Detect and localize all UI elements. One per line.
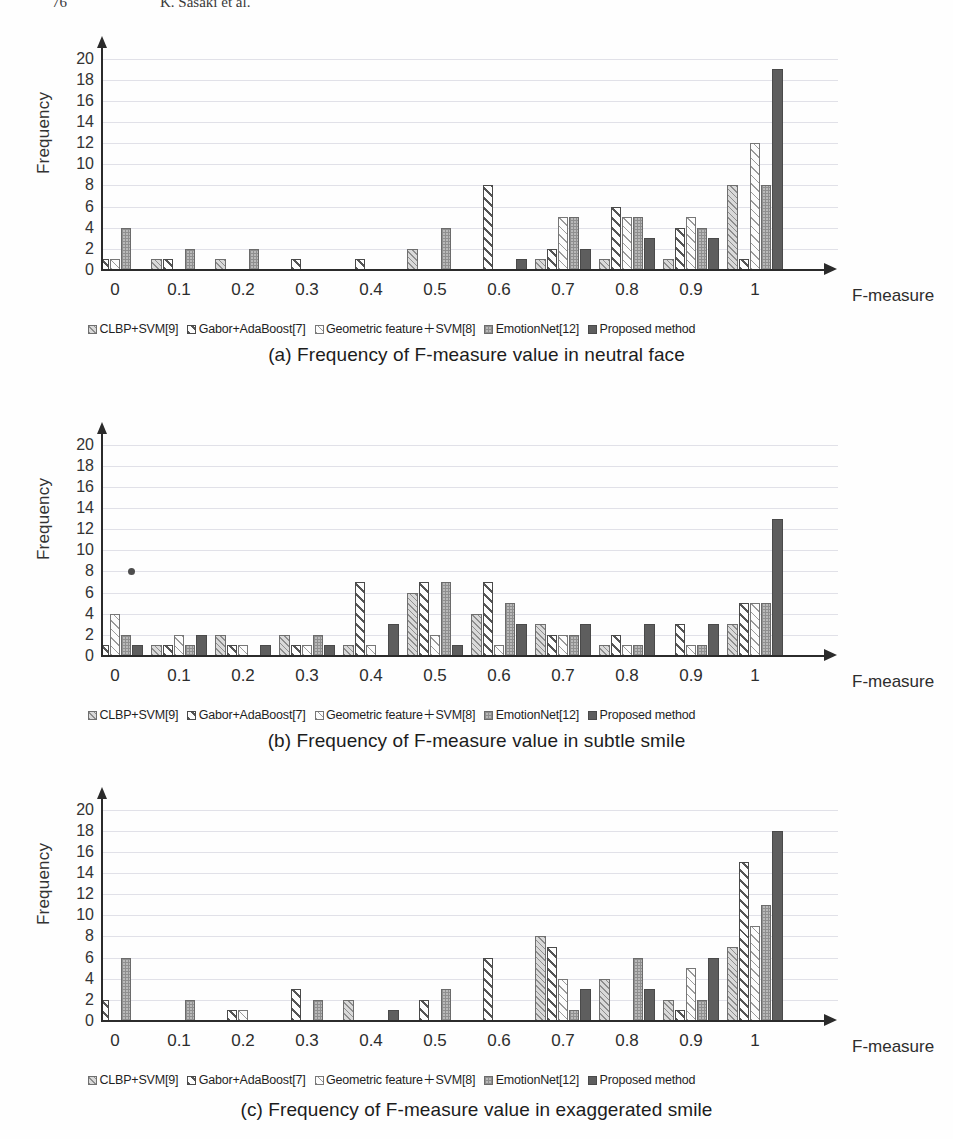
- y-tick-label: 14: [76, 865, 94, 881]
- x-tick-label: 0.4: [359, 280, 383, 300]
- legend-swatch-s0: [88, 1076, 97, 1085]
- figure-c: Frequency2018161412108642000.10.20.30.40…: [0, 785, 953, 1139]
- bar: [633, 217, 643, 270]
- x-axis-line: [101, 655, 827, 657]
- bar: [750, 926, 760, 1021]
- x-axis-title: F-measure: [852, 672, 934, 692]
- bar: [739, 862, 749, 1021]
- y-axis-arrow: [97, 422, 107, 434]
- bar: [761, 603, 771, 656]
- x-axis-title: F-measure: [852, 1037, 934, 1057]
- bar: [761, 185, 771, 270]
- chart-legend: CLBP+SVM[9]Gabor+AdaBoost[7]Geometric fe…: [88, 1069, 888, 1088]
- x-tick-label: 0.2: [231, 666, 255, 686]
- bar: [430, 635, 440, 656]
- bar: [441, 582, 451, 656]
- gridline: [101, 529, 838, 530]
- y-tick-label: 6: [85, 585, 94, 601]
- x-tick-label: 0.2: [231, 1031, 255, 1051]
- bar: [750, 603, 760, 656]
- gridline: [101, 852, 838, 853]
- bar: [535, 936, 545, 1021]
- bar: [483, 185, 493, 270]
- x-tick-label: 0.7: [551, 1031, 575, 1051]
- gridline: [101, 894, 838, 895]
- x-tick-label: 0.4: [359, 1031, 383, 1051]
- legend-label: CLBP+SVM[9]: [100, 1073, 179, 1087]
- legend-label: Gabor+AdaBoost[7]: [199, 708, 306, 722]
- bar: [121, 228, 131, 270]
- legend-label: Proposed method: [600, 322, 696, 336]
- x-tick-label: 0.5: [423, 666, 447, 686]
- chart-legend: CLBP+SVM[9]Gabor+AdaBoost[7]Geometric fe…: [88, 704, 888, 723]
- gridline: [101, 143, 838, 144]
- legend-item: CLBP+SVM[9]: [88, 322, 178, 336]
- bar: [633, 958, 643, 1021]
- gridline: [101, 122, 838, 123]
- x-tick-label: 0.8: [615, 666, 639, 686]
- x-tick-label: 0.3: [295, 1031, 319, 1051]
- y-axis-arrow: [97, 787, 107, 799]
- bar: [558, 979, 568, 1021]
- gridline: [101, 873, 838, 874]
- legend-label: Geometric feature＋SVM[8]: [326, 704, 475, 723]
- legend-label: CLBP+SVM[9]: [100, 708, 179, 722]
- x-tick-label: 0: [110, 1031, 119, 1051]
- y-axis-ticks: 20181614121086420: [56, 34, 94, 270]
- x-axis-ticks: 00.10.20.30.40.50.60.70.80.91: [101, 1031, 846, 1055]
- y-axis-line: [101, 799, 103, 1021]
- y-tick-label: 12: [76, 521, 94, 537]
- bar: [644, 989, 654, 1021]
- x-tick-label: 0.9: [679, 280, 703, 300]
- gridline: [101, 593, 838, 594]
- x-tick-label: 0.7: [551, 666, 575, 686]
- legend-swatch-s3: [484, 711, 493, 720]
- figure-caption: (b) Frequency of F-measure value in subt…: [0, 730, 953, 752]
- figure-a: Frequency2018161412108642000.10.20.30.40…: [0, 34, 953, 404]
- y-tick-label: 6: [85, 199, 94, 215]
- figure-b: Frequency2018161412108642000.10.20.30.40…: [0, 420, 953, 790]
- x-tick-label: 0.7: [551, 280, 575, 300]
- bar: [121, 635, 131, 656]
- y-axis-label: Frequency: [34, 538, 54, 560]
- legend-label: Gabor+AdaBoost[7]: [199, 1073, 306, 1087]
- legend-item: Geometric feature＋SVM[8]: [315, 704, 476, 723]
- legend-swatch-s4: [588, 325, 597, 334]
- y-tick-label: 0: [85, 648, 94, 664]
- bar: [407, 249, 417, 270]
- bar: [313, 635, 323, 656]
- x-tick-label: 0.3: [295, 666, 319, 686]
- bar: [772, 69, 782, 270]
- x-tick-label: 0.6: [487, 280, 511, 300]
- y-tick-label: 2: [85, 627, 94, 643]
- y-axis-line: [101, 48, 103, 270]
- bar: [611, 207, 621, 270]
- x-tick-label: 0.6: [487, 666, 511, 686]
- bar: [739, 603, 749, 656]
- y-tick-label: 2: [85, 992, 94, 1008]
- bar: [185, 1000, 195, 1021]
- bar: [599, 979, 609, 1021]
- y-tick-label: 18: [76, 72, 94, 88]
- x-tick-label: 0.2: [231, 280, 255, 300]
- legend-swatch-s1: [187, 1076, 196, 1085]
- bar: [558, 217, 568, 270]
- plot-area: [101, 434, 838, 656]
- y-axis-ticks: 20181614121086420: [56, 785, 94, 1021]
- x-tick-label: 0.1: [167, 280, 191, 300]
- legend-swatch-s1: [187, 711, 196, 720]
- plot-area: [101, 799, 838, 1021]
- bar: [121, 958, 131, 1021]
- legend-label: Geometric feature＋SVM[8]: [326, 318, 475, 337]
- x-tick-label: 0.8: [615, 1031, 639, 1051]
- bar: [185, 249, 195, 270]
- bar: [569, 635, 579, 656]
- x-tick-label: 0.3: [295, 280, 319, 300]
- x-tick-label: 1: [750, 280, 759, 300]
- legend-label: EmotionNet[12]: [496, 708, 579, 722]
- running-title: K. Sasaki et al.: [160, 0, 250, 11]
- bar: [547, 249, 557, 270]
- chart-a: Frequency2018161412108642000.10.20.30.40…: [0, 34, 953, 302]
- bar: [196, 635, 206, 656]
- bar: [675, 624, 685, 656]
